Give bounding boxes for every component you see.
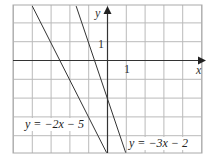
y-tick-1: 1 xyxy=(98,38,104,50)
line-label-1: y = −2x − 5 xyxy=(25,118,84,131)
x-axis-label: x xyxy=(196,64,201,76)
y-axis-arrow-icon xyxy=(104,6,112,14)
line-label-2: y = −3x − 2 xyxy=(129,137,188,150)
y-axis-label: y xyxy=(95,7,100,19)
x-tick-1: 1 xyxy=(124,63,130,75)
graph xyxy=(0,0,213,157)
